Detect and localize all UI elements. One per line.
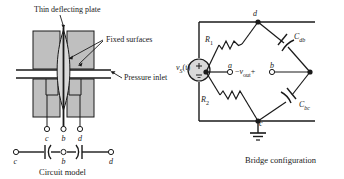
label-output-voltage: −vout+ [235,68,255,78]
output-terminal-b [269,69,274,74]
label-voltage-source: vS(t) [176,64,190,74]
model-terminal-c [13,149,18,154]
bridge-configuration-diagram [172,0,344,179]
label-fixed-surfaces: Fixed surfaces [106,36,152,44]
label-thin-deflecting-plate: Thin deflecting plate [34,6,101,14]
label-resistor-r1: R1 [205,36,213,46]
label-node-b: b [270,62,274,70]
caption-circuit-model: Circuit model [39,168,86,177]
model-terminal-b [61,149,66,154]
label-sensor-terminal-c: c [45,135,49,143]
node-dot-b [307,69,312,74]
label-model-terminal-b: b [62,158,66,166]
branch-cbc-wire-upper [292,72,310,95]
branch-r2-wire-upper [206,72,220,95]
label-capacitor-cbc: Cbc [299,101,310,111]
resistor-r2-zigzag [220,91,243,99]
voltage-source-arg: (t) [183,63,191,72]
node-dot-d [255,19,260,24]
capacitor-cbc-plate-2 [281,92,291,103]
vout-plus-sign: + [251,67,256,76]
label-resistor-r2: R2 [201,96,209,106]
branch-cdb-wire-upper [258,22,284,43]
branch-r1-wire-upper [242,22,258,44]
label-capacitor-cdb: Cdb [294,33,305,43]
resistor-r1-zigzag [219,41,242,49]
label-node-d: d [253,10,257,18]
branch-cdb-wire-lower [288,47,310,72]
label-sensor-terminal-b: b [62,135,66,143]
label-pressure-inlet: Pressure inlet [124,74,167,82]
label-node-a: a [228,62,232,70]
pressure-sensor-diagram [0,0,172,179]
caption-bridge-configuration: Bridge configuration [245,156,316,165]
r1-subscript: 1 [210,40,213,46]
model-cap-cb-plate-curved [48,145,51,159]
label-node-c: c [259,120,263,128]
output-terminal-a [227,69,232,74]
branch-r2-wire-lower [243,96,258,121]
vout-subscript: out [243,72,251,78]
arrowhead-thin-deflecting-plate [62,25,66,30]
label-sensor-terminal-d: d [78,135,82,143]
sensor-terminal-c [44,126,49,131]
textbook-figure: Thin deflecting plate Fixed surfaces Pre… [0,0,344,179]
node-dot-a [203,69,208,74]
label-model-terminal-c: c [14,158,18,166]
capacitor-cdb-plate-2 [282,40,294,51]
sensor-terminal-b [61,126,66,131]
model-cap-bd-plate-curved [76,145,79,159]
model-terminal-d [108,149,113,154]
sensor-body-upper-left [33,31,60,69]
cbc-subscript: bc [304,105,310,111]
cdb-subscript: db [299,37,305,43]
sensor-terminal-d [77,126,82,131]
r2-subscript: 2 [206,100,209,106]
branch-r1-wire-lower [206,45,219,72]
label-model-terminal-d: d [109,158,113,166]
sensor-body-upper-right [67,31,94,69]
